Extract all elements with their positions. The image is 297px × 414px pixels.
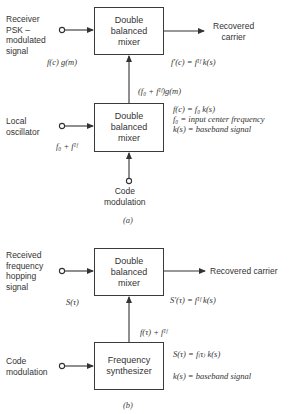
receiver-signal-formula: f(c) g(m) — [47, 57, 77, 67]
double-balanced-mixer-a-bottom: Double balanced mixer — [94, 103, 164, 152]
diagram-figure: Receiver PSK – modulated signal f(c) g(m… — [0, 0, 297, 414]
recovered-carrier-a-label: Recovered carrier — [213, 21, 254, 42]
legend-b-line2: k(s) = baseband signal — [173, 371, 251, 381]
local-oscillator-label: Local oscillator — [6, 116, 40, 137]
caption-b: (b) — [123, 400, 133, 410]
code-modulation-b-label: Code modulation — [6, 356, 48, 377]
mixer-link-formula: (f₀ + fᴵᶠ)g(m) — [138, 86, 181, 96]
code-modulation-a-label: Code modulation — [104, 186, 146, 207]
legend-b-line1: S(τ) = f₍τ₎ k(s) — [173, 349, 220, 359]
double-balanced-mixer-b: Double balanced mixer — [94, 248, 164, 296]
lo-signal-formula: f₀ + fᴵᶠ — [56, 141, 77, 151]
received-signal-formula: S(τ) — [66, 297, 79, 307]
output-signal-b-formula: S′(τ) = fᴵᶠ k(s) — [170, 295, 216, 305]
legend-a: f(c) = f₀ k(s) f₀ = input center frequen… — [173, 104, 264, 134]
double-balanced-mixer-a-top: Double balanced mixer — [94, 7, 164, 55]
frequency-synthesizer: Frequency synthesizer — [94, 342, 164, 390]
received-fh-signal-label: Received frequency hopping signal — [6, 250, 43, 292]
receiver-input-label: Receiver PSK – modulated signal — [6, 14, 46, 56]
output-signal-a-formula: f′(c) = fᴵᶠ k(s) — [171, 57, 216, 67]
synth-link-formula: f(τ) + fᴵᶠ — [140, 327, 167, 337]
caption-a: (a) — [123, 215, 133, 225]
recovered-carrier-b-label: Recovered carrier — [210, 266, 278, 277]
